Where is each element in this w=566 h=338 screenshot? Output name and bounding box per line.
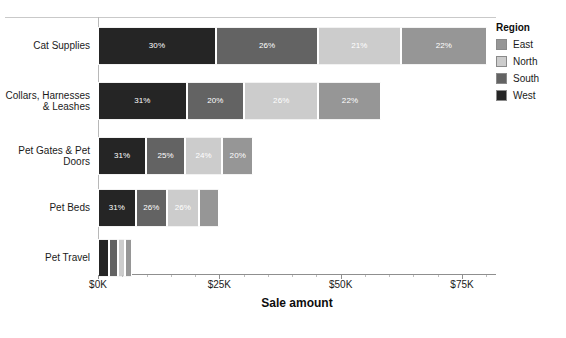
legend-swatch-west [496,90,507,101]
segment-percent-label: 25% [157,152,173,160]
stacked-bar[interactable] [98,239,132,277]
legend-swatch-east [496,39,507,50]
bar-row [98,239,496,277]
bar-segment-north[interactable]: 26% [167,189,199,227]
bar-segment-east[interactable]: 22% [401,27,487,65]
y-axis-category-labels: Cat SuppliesCollars, Harnesses & Leashes… [4,17,94,275]
bar-segment-south[interactable]: 26% [136,189,168,227]
y-axis-label-text: Pet Travel [4,252,90,264]
bar-row: 30%26%21%22% [98,27,496,65]
x-axis-tick-label: $0K [89,279,107,290]
x-axis-minor-tick [365,275,366,277]
x-axis-minor-tick [244,275,245,277]
segment-percent-label: 30% [149,42,165,50]
y-axis-label-text: Cat Supplies [4,40,90,52]
legend-label: East [513,39,533,50]
x-axis-minor-tick [413,275,414,277]
x-axis-minor-tick [316,275,317,277]
bar-segment-west[interactable]: 31% [98,189,136,227]
legend-swatch-north [496,56,507,67]
legend-items: EastNorthSouthWest [496,38,562,102]
stacked-bar[interactable]: 31%25%24%20% [98,137,253,175]
x-axis-minor-tick [486,275,487,277]
segment-percent-label: 31% [134,97,150,105]
legend-item-east[interactable]: East [496,38,562,51]
y-axis-label-text: Pet Gates & Pet Doors [4,145,90,168]
x-axis-minor-tick [195,275,196,277]
segment-percent-label: 20% [230,152,246,160]
segment-percent-label: 20% [207,97,223,105]
x-axis-tick-label: $25K [208,279,231,290]
legend-label: South [513,73,539,84]
bar-segment-south[interactable]: 20% [187,82,244,120]
x-axis-title: Sale amount [98,296,496,310]
segment-percent-label: 22% [342,97,358,105]
legend-label: North [513,56,537,67]
bar-row: 31%20%26%22% [98,82,496,120]
bar-segment-west[interactable]: 31% [98,137,146,175]
x-axis-minor-tick [147,275,148,277]
stacked-bar-chart: Cat SuppliesCollars, Harnesses & Leashes… [0,0,566,338]
y-axis-label-text: Pet Beds [4,202,90,214]
bar-segment-east[interactable] [199,189,220,227]
bar-row: 31%26%26% [98,189,496,227]
segment-percent-label: 24% [195,152,211,160]
x-axis-tick-label: $50K [329,279,352,290]
segment-percent-label: 26% [259,42,275,50]
bar-segment-north[interactable]: 26% [244,82,318,120]
x-axis-tick-labels: $0K$25K$50K$75K [0,279,566,295]
x-axis-minor-tick [171,275,172,277]
y-axis-label: Cat Supplies [4,27,90,65]
y-axis-label: Pet Travel [4,239,90,277]
y-axis-label: Collars, Harnesses & Leashes [4,82,90,120]
y-axis-label-text: Collars, Harnesses & Leashes [4,90,90,113]
bar-row: 31%25%24%20% [98,137,496,175]
bar-segment-east[interactable] [125,239,132,277]
x-axis-minor-tick [268,275,269,277]
y-axis-label: Pet Gates & Pet Doors [4,137,90,175]
y-axis-label: Pet Beds [4,189,90,227]
legend-item-south[interactable]: South [496,72,562,85]
x-axis-minor-tick [292,275,293,277]
bar-segment-north[interactable]: 21% [318,27,401,65]
segment-percent-label: 26% [175,204,191,212]
x-axis-minor-tick [438,275,439,277]
bar-segment-west[interactable]: 31% [98,82,187,120]
legend-title: Region [496,22,562,33]
segment-percent-label: 26% [143,204,159,212]
bar-segment-east[interactable]: 22% [318,82,381,120]
segment-percent-label: 31% [109,204,125,212]
x-axis-tick-label: $75K [450,279,473,290]
bar-segment-south[interactable]: 26% [216,27,318,65]
bar-segment-north[interactable] [118,239,125,277]
bar-segment-south[interactable] [109,239,118,277]
legend-item-north[interactable]: North [496,55,562,68]
bar-segment-north[interactable]: 24% [185,137,222,175]
bar-segment-east[interactable]: 20% [222,137,253,175]
stacked-bar[interactable]: 31%20%26%22% [98,82,381,120]
bar-segment-west[interactable]: 30% [98,27,216,65]
stacked-bar[interactable]: 31%26%26% [98,189,219,227]
segment-percent-label: 21% [351,42,367,50]
legend: Region EastNorthSouthWest [496,22,562,106]
stacked-bar[interactable]: 30%26%21%22% [98,27,487,65]
legend-label: West [513,90,536,101]
x-axis-minor-tick [389,275,390,277]
bar-rows: 30%26%21%22%31%20%26%22%31%25%24%20%31%2… [98,17,496,275]
segment-percent-label: 26% [273,97,289,105]
segment-percent-label: 31% [114,152,130,160]
legend-item-west[interactable]: West [496,89,562,102]
bar-segment-south[interactable]: 25% [146,137,185,175]
bar-segment-west[interactable] [98,239,109,277]
x-axis-minor-tick [122,275,123,277]
segment-percent-label: 22% [436,42,452,50]
legend-swatch-south [496,73,507,84]
